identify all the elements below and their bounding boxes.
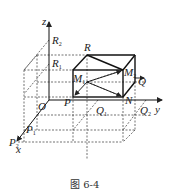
- r1-label: R1: [51, 57, 62, 70]
- y-label: y: [154, 103, 160, 115]
- m2-label: M2: [123, 66, 136, 79]
- q1-label: Q1: [96, 104, 107, 117]
- r-label: R: [83, 41, 91, 53]
- coordinate-box-diagram: z R2 R R1 M1 M2 Q P N O Q1 Q2 y P1 P2 x …: [0, 0, 171, 196]
- q2-label: Q2: [140, 104, 151, 117]
- origin-label: O: [38, 100, 46, 112]
- p1-label: P1: [25, 123, 36, 136]
- q-label: Q: [138, 75, 146, 87]
- r2-label: R2: [51, 34, 62, 47]
- x-label: x: [15, 143, 21, 155]
- n-label: N: [124, 94, 133, 106]
- figure-caption: 图 6-4: [70, 179, 99, 190]
- p-label: P: [63, 96, 71, 108]
- m1-label: M1: [72, 72, 85, 85]
- z-label: z: [41, 15, 47, 27]
